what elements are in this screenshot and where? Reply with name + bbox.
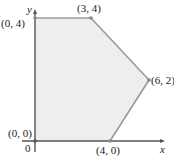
vertex-label-6-2: (6, 2) [151,74,174,87]
vertex-0-4 [33,16,37,20]
vertex-label-3-4: (3, 4) [77,2,101,15]
vertex-label-0-4: (0, 4) [1,17,25,30]
diagram-canvas: y x 0 (0, 4) (3, 4) (6, 2) (4, 0) (0, 0) [0,0,174,157]
vertex-label-4-0: (4, 0) [96,144,120,157]
y-axis-arrow-icon [33,9,37,14]
y-axis-label: y [26,3,32,15]
vertex-0-0 [33,139,37,143]
vertex-3-4 [89,16,93,20]
origin-label: 0 [25,142,31,154]
vertex-label-0-0: (0, 0) [8,127,32,140]
vertex-4-0 [108,139,112,143]
feasible-region [35,18,149,141]
x-axis-label: x [159,143,165,155]
